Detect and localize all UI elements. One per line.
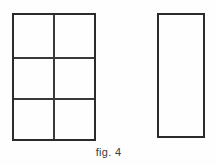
grid-horizontal-divider-1 bbox=[14, 57, 94, 59]
figure-caption: fig. 4 bbox=[0, 146, 217, 159]
figure-diagram: fig. 4 bbox=[0, 0, 217, 165]
subdivided-rectangle bbox=[12, 13, 96, 141]
grid-vertical-divider-1 bbox=[53, 15, 55, 139]
plain-rectangle bbox=[157, 13, 205, 138]
grid-horizontal-divider-2 bbox=[14, 98, 94, 100]
